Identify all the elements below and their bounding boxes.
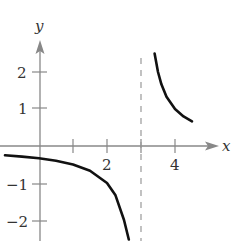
axes	[0, 40, 219, 241]
curve-right-branch	[155, 54, 192, 122]
y-tick-label-2: 2	[17, 64, 27, 82]
y-tick-label-neg1: −1	[6, 176, 28, 194]
x-tick-label-4: 4	[170, 156, 180, 174]
function-graph: y x 2 4 2 1 −1 −2	[0, 0, 232, 241]
y-tick-label-neg2: −2	[6, 213, 28, 231]
x-axis-label: x	[222, 137, 231, 155]
y-tick-label-1: 1	[18, 100, 28, 118]
y-axis-label: y	[34, 17, 44, 35]
x-tick-label-2: 2	[102, 156, 112, 174]
